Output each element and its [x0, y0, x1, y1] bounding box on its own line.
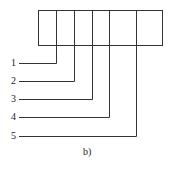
- diagram-drawing: [0, 0, 173, 169]
- caption: b): [83, 147, 91, 157]
- segmented-box: [39, 11, 163, 46]
- label-2: 2: [11, 76, 16, 86]
- label-5: 5: [11, 131, 16, 141]
- label-4: 4: [11, 112, 16, 122]
- label-1: 1: [11, 58, 16, 68]
- label-3: 3: [11, 94, 16, 104]
